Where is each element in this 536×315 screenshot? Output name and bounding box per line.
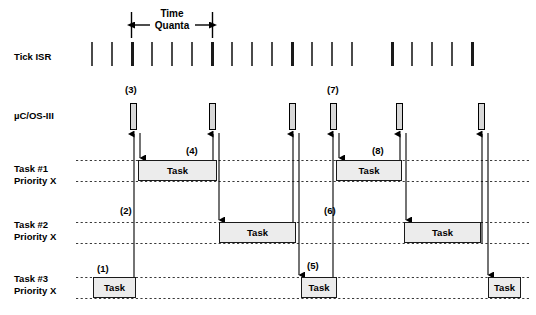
task-block-task-3: Task — [93, 277, 136, 298]
task-block-task-3: Task — [301, 277, 337, 298]
scheduler-block — [396, 103, 403, 130]
task-block-task-1: Task — [138, 160, 217, 181]
callout-2: (2) — [120, 205, 132, 216]
scheduler-block — [478, 103, 485, 130]
tick-mark-minor — [351, 42, 353, 66]
callout-4: (4) — [186, 145, 198, 156]
scheduler-block — [289, 103, 296, 130]
task-block-task-3: Task — [488, 277, 521, 298]
tick-mark-major — [291, 42, 294, 66]
time-quanta-bracket — [132, 12, 213, 38]
tick-mark-minor — [311, 42, 313, 66]
tick-mark-minor — [111, 42, 113, 66]
tick-mark-minor — [431, 42, 433, 66]
tick-mark-major — [131, 42, 134, 66]
tick-mark-minor — [91, 42, 93, 66]
control-flow-arrows — [134, 133, 488, 297]
timing-diagram: Tick ISR µC/OS-III Task #1 Priority X Ta… — [0, 0, 536, 315]
callout-5: (5) — [307, 260, 319, 271]
diagram-vectors — [0, 0, 536, 315]
callout-3: (3) — [125, 84, 137, 95]
tick-mark-minor — [231, 42, 233, 66]
callout-7: (7) — [327, 84, 339, 95]
callout-1: (1) — [97, 263, 109, 274]
tick-mark-minor — [171, 42, 173, 66]
tick-mark-minor — [271, 42, 273, 66]
task-block-task-1: Task — [336, 160, 402, 181]
tick-mark-major — [211, 42, 214, 66]
tick-mark-minor — [411, 42, 413, 66]
tick-mark-minor — [451, 42, 453, 66]
callout-6: (6) — [324, 205, 336, 216]
tick-mark-major — [471, 42, 474, 66]
callout-8: (8) — [372, 145, 384, 156]
tick-mark-minor — [251, 42, 253, 66]
scheduler-block — [330, 103, 337, 130]
scheduler-block — [130, 103, 137, 130]
task-block-task-2: Task — [219, 222, 296, 243]
tick-mark-minor — [191, 42, 193, 66]
scheduler-block — [209, 103, 216, 130]
tick-mark-minor — [331, 42, 333, 66]
tick-mark-minor — [151, 42, 153, 66]
task-block-task-2: Task — [404, 222, 481, 243]
tick-mark-major — [391, 42, 394, 66]
